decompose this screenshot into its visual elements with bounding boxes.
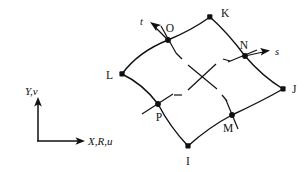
node-label-N: N	[240, 39, 249, 51]
node-dot-I	[185, 143, 190, 148]
node-label-M: M	[223, 122, 233, 134]
node-dot-L	[119, 71, 124, 76]
edge-curve-I-P-L	[122, 74, 188, 146]
grid-stub-top-left	[176, 53, 182, 59]
corner-node-group: K J I L	[106, 7, 297, 167]
node-dot-M	[229, 112, 235, 118]
element-centroid-cross	[188, 64, 217, 90]
grid-stub-top-right	[223, 59, 230, 61]
node-dot-K	[207, 14, 212, 19]
x-axis-label: X,R,u	[87, 135, 113, 147]
y-axis-label: Y,v	[25, 85, 38, 97]
node-dot-P	[155, 101, 161, 107]
figure-canvas: Y,v X,R,u	[0, 0, 306, 172]
node-dot-O	[165, 37, 171, 43]
mid-node-group: O N M P	[155, 22, 249, 134]
node-label-P: P	[156, 111, 162, 123]
edge-curve-J-M-I	[188, 89, 283, 146]
s-axis-label: s	[275, 46, 279, 57]
node-label-L: L	[106, 69, 113, 81]
global-axes-group: Y,v X,R,u	[25, 85, 113, 147]
t-axis-label: t	[140, 16, 144, 27]
grid-stub-bottom-right	[222, 95, 227, 101]
node-label-K: K	[221, 7, 230, 19]
node-label-I: I	[186, 155, 190, 167]
quadrilateral-element-diagram: Y,v X,R,u	[0, 0, 306, 172]
node-label-O: O	[166, 22, 174, 34]
node-dot-J	[280, 86, 285, 91]
natural-coordinate-arrows: t s	[140, 16, 279, 57]
node-dot-N	[242, 53, 248, 59]
edge-curve-K-N-J	[210, 17, 283, 89]
element-boundary-group	[122, 17, 283, 146]
t-direction-arrowhead-icon	[150, 22, 161, 31]
node-label-J: J	[292, 83, 297, 95]
